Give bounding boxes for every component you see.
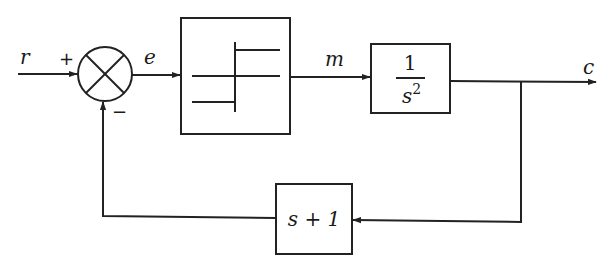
input-label: r (20, 45, 31, 69)
plus-sign: + (59, 48, 74, 69)
error-label: e (144, 45, 156, 69)
feedback-block-label: s + 1 (288, 207, 340, 231)
output-signal: c (450, 55, 596, 82)
control-block-diagram: r + − e m 1 s2 c (0, 0, 615, 276)
feedback-path (103, 81, 521, 222)
manipulated-signal: m (290, 47, 370, 77)
feedback-block: s + 1 (276, 184, 352, 254)
summing-junction: + − (59, 47, 132, 122)
output-label: c (583, 55, 594, 79)
error-signal: e (132, 45, 180, 75)
plant-denominator: s2 (402, 81, 421, 108)
plant-denominator-base: s (402, 84, 412, 108)
feedback-return-arrow (353, 81, 521, 222)
feedback-to-summing-arrow (103, 102, 276, 218)
manipulated-label: m (325, 47, 344, 71)
relay-hysteresis-icon (192, 42, 280, 112)
nonlinear-block (181, 18, 290, 134)
plant-denominator-exponent: 2 (412, 81, 421, 97)
minus-sign: − (112, 101, 127, 122)
plant-numerator: 1 (404, 51, 417, 75)
output-arrow (450, 81, 596, 82)
plant-block: 1 s2 (371, 44, 450, 113)
